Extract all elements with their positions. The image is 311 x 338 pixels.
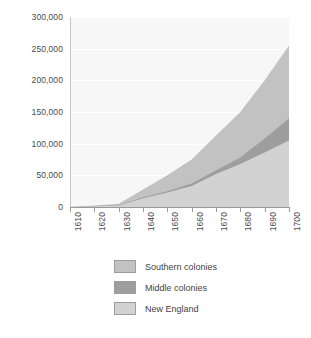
x-tick-label: 1650 xyxy=(171,212,180,231)
x-tick-label: 1640 xyxy=(147,212,156,231)
x-tick-label: 1620 xyxy=(98,212,107,231)
plot-block: 050,000100,000150,000200,000250,000300,0… xyxy=(0,0,311,250)
y-tick-label: 0 xyxy=(58,203,63,212)
x-tick-label: 1680 xyxy=(244,212,253,231)
legend-item-new-england: New England xyxy=(114,301,199,316)
x-tick-label: 1670 xyxy=(220,212,229,231)
legend-swatch-middle-colonies xyxy=(114,281,136,294)
legend-label-new-england: New England xyxy=(145,304,199,314)
x-tick-label: 1610 xyxy=(74,212,83,231)
legend-label-middle-colonies: Middle colonies xyxy=(145,283,207,293)
stacked-area-chart: 050,000100,000150,000200,000250,000300,0… xyxy=(0,0,311,338)
y-axis: 050,000100,000150,000200,000250,000300,0… xyxy=(0,0,66,215)
legend-item-southern-colonies: Southern colonies xyxy=(114,259,217,274)
legend-swatch-southern-colonies xyxy=(114,260,136,273)
x-tick-label: 1700 xyxy=(293,212,302,231)
y-tick-label: 200,000 xyxy=(32,76,63,85)
plot-area xyxy=(70,17,289,207)
x-tick-label: 1660 xyxy=(196,212,205,231)
y-tick-label: 150,000 xyxy=(32,108,63,117)
y-tick-label: 300,000 xyxy=(32,13,63,22)
y-tick-label: 50,000 xyxy=(36,171,63,180)
legend-item-middle-colonies: Middle colonies xyxy=(114,280,207,295)
x-tick-label: 1690 xyxy=(269,212,278,231)
y-tick-label: 250,000 xyxy=(32,44,63,53)
legend-label-southern-colonies: Southern colonies xyxy=(145,262,217,272)
x-axis: 1610162016301640165016601670168016901700 xyxy=(70,212,290,246)
legend: Southern colonies Middle colonies New En… xyxy=(0,255,311,330)
legend-swatch-new-england xyxy=(114,302,136,315)
y-tick-label: 100,000 xyxy=(32,139,63,148)
y-axis-line xyxy=(70,17,71,208)
x-tick-label: 1630 xyxy=(123,212,132,231)
series-layer xyxy=(70,17,289,207)
